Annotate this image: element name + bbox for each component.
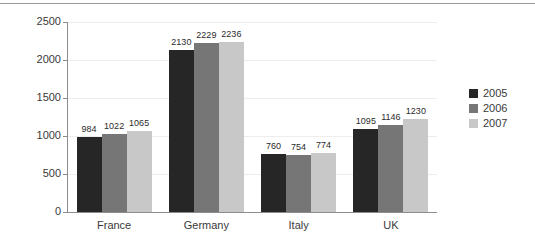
bar: [219, 42, 244, 212]
x-axis-category-label: UK: [345, 220, 437, 231]
x-axis-line: [67, 212, 437, 213]
bar: [127, 131, 152, 212]
legend-label: 2006: [483, 102, 507, 114]
bar: [261, 154, 286, 212]
grouped-bar-chart: 05001000150020002500 9841022106521302229…: [0, 0, 535, 247]
bar: [378, 125, 403, 212]
bar: [77, 137, 102, 212]
y-axis-tick-label: 1500: [37, 92, 61, 103]
y-axis-line: [67, 22, 68, 213]
gridline: [68, 98, 437, 99]
legend-color-swatch: [469, 89, 478, 98]
gridline: [68, 22, 437, 23]
y-axis-tick-label: 1000: [37, 130, 61, 141]
y-axis-tick-label: 2500: [37, 16, 61, 27]
bar: [169, 50, 194, 212]
legend-item: 2005: [469, 87, 531, 102]
bar-value-label: 774: [307, 141, 340, 150]
legend-color-swatch: [469, 104, 478, 113]
legend-item: 2007: [469, 117, 531, 132]
bar: [194, 43, 219, 212]
bar: [311, 153, 336, 212]
y-axis-tick-label: 2000: [37, 54, 61, 65]
bar: [403, 119, 428, 212]
legend-color-swatch: [469, 119, 478, 128]
x-axis-category-label: France: [68, 220, 160, 231]
bar-value-label: 2236: [215, 30, 248, 39]
y-axis-tick-label: 500: [43, 168, 61, 179]
legend-item: 2006: [469, 102, 531, 117]
bar: [353, 129, 378, 212]
bar-value-label: 1230: [399, 107, 432, 116]
chart-legend: 200520062007: [469, 87, 531, 132]
x-axis-category-label: Italy: [253, 220, 345, 231]
bar: [102, 134, 127, 212]
bar: [286, 155, 311, 212]
x-axis-category-label: Germany: [160, 220, 252, 231]
legend-label: 2005: [483, 87, 507, 99]
bar-value-label: 1065: [123, 119, 156, 128]
y-axis-tick-label: 0: [55, 206, 61, 217]
gridline: [68, 60, 437, 61]
legend-label: 2007: [483, 117, 507, 129]
